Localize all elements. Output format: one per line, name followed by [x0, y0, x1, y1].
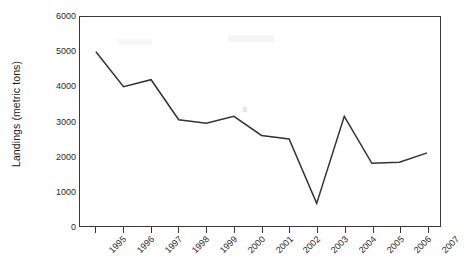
y-tick-label: 5000 — [34, 46, 76, 56]
x-tick-label: 2005 — [384, 234, 405, 255]
x-tick-mark — [206, 227, 207, 233]
x-tick-mark — [234, 227, 235, 233]
y-tick-label: 2000 — [34, 152, 76, 162]
x-tick-mark — [373, 227, 374, 233]
x-tick-mark — [289, 227, 290, 233]
y-axis-title: Landings (metric tons) — [0, 0, 32, 228]
chart-figure: Landings (metric tons) 60005000400030002… — [0, 0, 464, 277]
x-tick-mark — [400, 227, 401, 233]
y-axis-title-text: Landings (metric tons) — [10, 61, 22, 167]
x-tick-label: 2003 — [329, 234, 350, 255]
y-tick-label: 4000 — [34, 81, 76, 91]
x-tick-label: 1995 — [107, 234, 128, 255]
x-axis-tick-labels: 1995199619971998199920002001200220032004… — [79, 234, 441, 277]
x-tick-label: 2000 — [246, 234, 267, 255]
x-tick-mark — [345, 227, 346, 233]
x-tick-mark — [262, 227, 263, 233]
y-axis-tick-labels: 6000500040003000200010000 — [30, 0, 76, 277]
x-tick-mark — [151, 227, 152, 233]
x-tick-label: 2001 — [273, 234, 294, 255]
y-tick-label: 1000 — [34, 187, 76, 197]
data-line-landings — [96, 52, 427, 204]
x-tick-mark — [178, 227, 179, 233]
x-tick-mark — [428, 227, 429, 233]
x-tick-label: 1997 — [162, 234, 183, 255]
x-tick-label: 2006 — [412, 234, 433, 255]
x-tick-label: 1998 — [190, 234, 211, 255]
x-tick-label: 2004 — [357, 234, 378, 255]
x-tick-mark — [317, 227, 318, 233]
x-tick-mark — [123, 227, 124, 233]
plot-area — [79, 16, 441, 227]
x-tick-mark — [95, 227, 96, 233]
y-tick-label: 6000 — [34, 11, 76, 21]
x-tick-label: 1999 — [218, 234, 239, 255]
line-series-svg — [80, 17, 440, 226]
y-tick-label: 3000 — [34, 117, 76, 127]
y-tick-label: 0 — [34, 222, 76, 232]
x-tick-label: 1996 — [135, 234, 156, 255]
x-tick-label: 2002 — [301, 234, 322, 255]
x-tick-label: 2007 — [440, 234, 461, 255]
